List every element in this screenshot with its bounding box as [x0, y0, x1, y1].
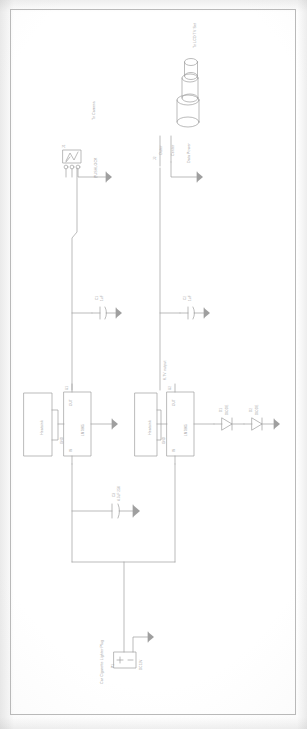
label-heatsink-2: Heatsink	[149, 420, 153, 435]
label-outer: Outer	[160, 146, 164, 156]
ref-j1: J1	[63, 145, 66, 148]
ground-symbol-source	[148, 632, 154, 642]
diode-d1	[214, 418, 244, 430]
value-c2: 1uF	[189, 295, 192, 301]
part-u2: LM7805	[185, 424, 188, 436]
part-u1: LM7805	[82, 424, 85, 436]
ref-u1: U1	[66, 386, 69, 390]
ref-d1: D1	[220, 408, 223, 412]
ref-source-plug: P1	[112, 664, 115, 668]
capacitor-c3	[72, 504, 133, 518]
ref-c3: C3	[113, 493, 116, 497]
ref-c2: C2	[184, 296, 187, 300]
label-6v7-output: 6.7V output	[164, 361, 168, 380]
pin-u2-in: IN	[173, 449, 176, 452]
part-d1: DIODE	[226, 405, 229, 415]
value-c3: 4.7uF 25V	[118, 486, 121, 501]
label-center: Center	[172, 145, 176, 156]
pin-u1-out: OUT	[70, 399, 73, 406]
pin-u2-out: OUT	[173, 399, 176, 406]
capacitor-c1	[92, 307, 116, 319]
connector-j1-pushlock	[63, 150, 97, 177]
pin-u2-gnd: GND	[163, 437, 166, 444]
label-to-camera: To Camera	[93, 102, 97, 120]
ground-symbol-c3	[133, 505, 140, 517]
ground-symbol-c1	[116, 308, 122, 318]
ground-symbol-diodes	[274, 419, 280, 429]
value-source-plug: DC12V	[140, 660, 143, 670]
pin-u1-in: IN	[70, 449, 73, 452]
ref-j2: J2	[154, 157, 157, 160]
ref-c1: C1	[96, 296, 99, 300]
label-heatsink-1: Heatsink	[41, 420, 45, 435]
part-d2: DIODE	[256, 405, 259, 415]
ground-symbol-j2	[197, 172, 203, 182]
diode-d2	[244, 418, 274, 430]
capacitor-c2	[180, 307, 204, 319]
net-camera-rail	[72, 168, 77, 390]
net-power-bus	[72, 464, 175, 652]
heatsink-block-1	[24, 393, 52, 456]
value-c1: 1uF	[101, 295, 104, 301]
pin-u1-gnd: GND	[61, 437, 64, 444]
connector-j2-coax	[160, 59, 199, 167]
net-j2-data-power	[171, 162, 197, 177]
ref-u2: U2	[169, 386, 172, 390]
label-pushlock: PUSHLOCK	[95, 157, 99, 178]
ground-symbol-c2	[204, 308, 210, 318]
ground-symbol-j1	[97, 172, 112, 182]
label-car-cigarette-lighter-plug: Car Cigarette Lighter Plug	[101, 640, 105, 684]
circuit-schematic-drawing: To LCD TV Set To Camera J1 PUSHLOCK J2 O…	[0, 0, 307, 729]
label-to-lcd-tv-set: To LCD TV Set	[194, 23, 198, 48]
heatsink-block-2	[135, 393, 157, 456]
ground-symbol-u1	[112, 419, 118, 429]
ref-d2: D2	[250, 408, 253, 412]
schematic-page: To LCD TV Set To Camera J1 PUSHLOCK J2 O…	[0, 0, 307, 729]
label-data-power: Data Power	[188, 143, 192, 163]
